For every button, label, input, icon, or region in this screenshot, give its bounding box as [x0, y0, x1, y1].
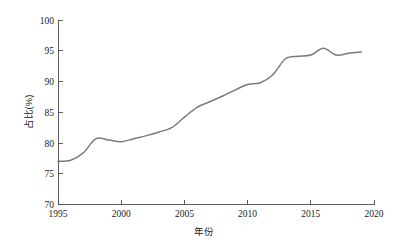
x-tick-marks [58, 200, 374, 205]
y-tick-label: 85 [45, 108, 55, 118]
y-tick-labels: 100 95 90 85 80 75 70 [40, 16, 55, 211]
x-tick-label: 1995 [49, 209, 68, 219]
x-tick-label: 2015 [301, 209, 320, 219]
y-tick-label: 80 [45, 139, 55, 149]
x-tick-labels: 1995 2000 2005 2010 2015 2020 [49, 209, 384, 219]
y-tick-label: 95 [45, 46, 55, 56]
x-tick-label: 2005 [175, 209, 194, 219]
x-tick-label: 2020 [365, 209, 384, 219]
y-tick-label: 90 [45, 77, 55, 87]
y-tick-label: 75 [45, 169, 55, 179]
y-tick-label: 100 [40, 16, 55, 26]
y-axis-title: 占比(%) [23, 95, 34, 130]
y-tick-marks [58, 20, 63, 205]
data-series-line [58, 48, 361, 161]
line-chart: 100 95 90 85 80 75 70 1995 2000 2005 201… [0, 0, 400, 245]
x-tick-label: 2010 [238, 209, 257, 219]
x-tick-label: 2000 [112, 209, 131, 219]
x-axis-title: 年份 [194, 226, 214, 237]
chart-figure: 100 95 90 85 80 75 70 1995 2000 2005 201… [0, 0, 400, 245]
